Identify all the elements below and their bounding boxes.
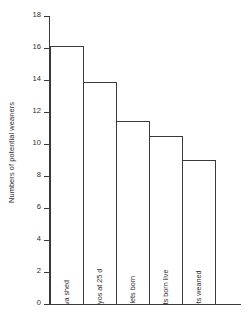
bar: embryos at 25 d [83, 82, 117, 305]
y-axis-tick-label-text: 16 [22, 43, 41, 51]
y-axis-tick [44, 176, 49, 177]
bar-category-label: piglets weaned [183, 290, 215, 299]
y-axis-tick [44, 144, 49, 145]
y-axis-tick-label-text: 10 [22, 139, 41, 147]
bar-category-label-text: piglets weaned [195, 271, 204, 305]
bar-category-label-text: ova shed [62, 280, 71, 305]
y-axis-tick [44, 80, 49, 81]
y-axis-tick-label: 6 [22, 203, 41, 213]
y-axis-tick-label-text: 8 [22, 171, 41, 179]
y-axis-tick-label-text: 6 [22, 203, 41, 211]
y-axis-tick [44, 304, 49, 305]
bar-category-label-text: embryos at 25 d [96, 269, 105, 305]
y-axis-tick-label-text: 14 [22, 75, 41, 83]
bar-chart: Numbers of potential weaners 02468101214… [0, 0, 249, 321]
y-axis-tick-label: 8 [22, 171, 41, 181]
y-axis-tick-label-text: 4 [22, 235, 41, 243]
y-axis-tick [44, 240, 49, 241]
y-axis-tick-label: 10 [22, 139, 41, 149]
y-axis-tick [44, 48, 49, 49]
y-axis-tick-label: 2 [22, 267, 41, 277]
y-axis-tick [44, 16, 49, 17]
bar-category-label: embryos at 25 d [84, 290, 116, 299]
bar: piglets weaned [182, 160, 216, 305]
bar: piglets born [116, 121, 150, 305]
bar-category-label: piglets born live [150, 290, 182, 299]
y-axis-tick-label: 12 [22, 107, 41, 117]
bar-category-label: ova shed [51, 290, 83, 299]
y-axis-tick-label: 18 [22, 11, 41, 21]
y-axis-tick-label-text: 18 [22, 11, 41, 19]
y-axis-tick-label-text: 0 [22, 299, 41, 307]
y-axis-tick [44, 272, 49, 273]
plot-area: 024681012141618 ova shedembryos at 25 dp… [0, 0, 249, 321]
y-axis-tick-label: 0 [22, 299, 41, 309]
y-axis-tick-label-text: 12 [22, 107, 41, 115]
y-axis-tick-label: 14 [22, 75, 41, 85]
y-axis-tick [44, 208, 49, 209]
y-axis-tick-label: 4 [22, 235, 41, 245]
y-axis-tick-label: 16 [22, 43, 41, 53]
bar-category-label: piglets born [117, 290, 149, 299]
bar: ova shed [50, 46, 84, 305]
bar-category-label-text: piglets born [129, 276, 138, 305]
y-axis-tick [44, 112, 49, 113]
bar-category-label-text: piglets born live [162, 270, 171, 305]
y-axis-tick-label-text: 2 [22, 267, 41, 275]
bar: piglets born live [149, 136, 183, 305]
